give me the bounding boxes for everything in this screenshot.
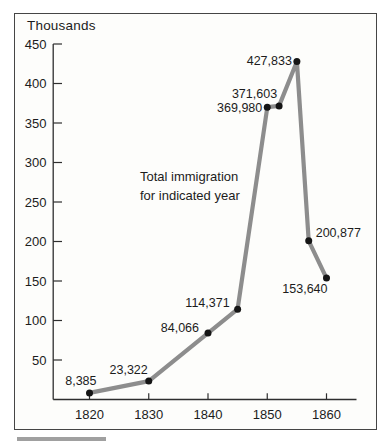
x-axis-tick-label: 1850	[253, 407, 282, 422]
figure: Thousands 501001502002503003504004501820…	[0, 0, 387, 446]
data-point-label: 8,385	[65, 374, 96, 388]
data-point-label: 427,833	[247, 54, 292, 68]
x-axis-tick-label: 1840	[194, 407, 223, 422]
data-point-label: 84,066	[161, 321, 199, 335]
data-point	[205, 330, 212, 337]
x-axis-tick-label: 1860	[312, 407, 341, 422]
data-point	[86, 389, 93, 396]
y-axis-tick-label: 50	[32, 353, 46, 368]
data-point	[293, 58, 300, 65]
caption-highlight-bar	[17, 437, 106, 441]
data-point-label: 371,603	[232, 87, 277, 101]
series-annotation-line1: Total immigration	[140, 167, 240, 186]
data-point	[276, 102, 283, 109]
data-point-label: 23,322	[110, 363, 148, 377]
y-axis-tick-label: 350	[25, 116, 47, 131]
y-axis-tick-label: 450	[25, 37, 47, 52]
y-axis-tick-label: 250	[25, 195, 47, 210]
data-point-label: 369,980	[217, 101, 262, 115]
series-annotation: Total immigration for indicated year	[140, 167, 240, 205]
line-chart-canvas: 5010015020025030035040045018201830184018…	[0, 0, 387, 446]
data-point	[323, 275, 330, 282]
data-point-label: 153,640	[282, 282, 327, 296]
data-point	[145, 378, 152, 385]
data-point	[234, 306, 241, 313]
x-axis-tick-label: 1820	[75, 407, 104, 422]
data-point-label: 114,371	[185, 296, 229, 310]
data-point	[264, 104, 271, 111]
data-point	[305, 237, 312, 244]
y-axis-tick-label: 100	[25, 313, 47, 328]
x-axis-tick-label: 1830	[134, 407, 163, 422]
series-annotation-line2: for indicated year	[140, 186, 240, 205]
immigration-line	[90, 62, 327, 393]
y-axis-tick-label: 150	[25, 274, 47, 289]
y-axis-tick-label: 200	[25, 234, 47, 249]
y-axis-tick-label: 400	[25, 76, 47, 91]
data-point-label: 200,877	[316, 226, 361, 240]
y-axis-tick-label: 300	[25, 155, 47, 170]
